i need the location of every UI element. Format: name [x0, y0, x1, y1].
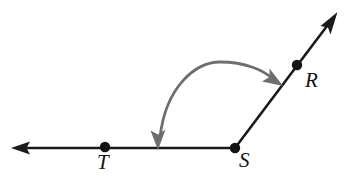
ray-sr — [235, 12, 338, 148]
angle-arc-arrowhead-upright-icon — [262, 69, 283, 87]
angle-arc — [151, 62, 284, 150]
angle-diagram: T S R — [0, 0, 349, 186]
point-R-label: R — [305, 70, 318, 91]
point-T-label: T — [97, 152, 109, 173]
angle-arc-curve — [160, 62, 274, 137]
ray-st — [11, 142, 235, 155]
point-R-dot — [292, 60, 302, 70]
diagram-canvas — [0, 0, 349, 186]
point-S-label: S — [239, 150, 250, 171]
